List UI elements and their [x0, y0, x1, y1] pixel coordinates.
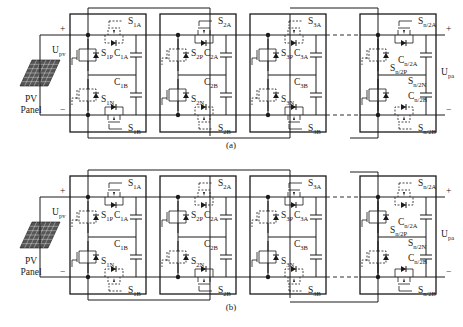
switch-label-N: S1N [101, 94, 115, 106]
diode-leads [395, 269, 413, 277]
mosfet-switch [162, 241, 189, 273]
diode-icon [383, 53, 389, 58]
output-voltage-label: Upa [441, 67, 454, 79]
mosfet-switch [395, 183, 413, 208]
diode-icon [383, 255, 389, 260]
interconnect [88, 176, 210, 300]
diode-icon [291, 40, 296, 46]
mosfet-switch [105, 21, 123, 46]
capacitor [310, 35, 322, 75]
mosfet-switch [285, 183, 303, 208]
diode-leads [105, 35, 123, 43]
capacitor-label-B: C2B [204, 239, 219, 251]
capacitor [130, 35, 142, 75]
junction-dot [376, 33, 380, 37]
mosfet-channel [169, 211, 178, 223]
diode-icon [111, 40, 116, 46]
circuit-diagram: PVPanel+−Upv+−UpaS1AS1BS1PS1NC1AC1BS2AS2… [0, 0, 463, 327]
module-1: S1AS1BS1PS1NC1AC1B [70, 14, 146, 135]
capacitor [220, 237, 232, 277]
junction-dot [176, 113, 180, 117]
output-minus-sign: − [446, 267, 451, 277]
diode-leads [105, 269, 123, 277]
mosfet-channel [79, 49, 88, 61]
mosfet-switch [72, 201, 99, 233]
pv-label: PV [25, 256, 37, 266]
mosfet-switch [362, 201, 389, 233]
capacitor-label-A: C3A [294, 48, 309, 60]
diode-leads [378, 251, 386, 263]
arrow-icon [203, 278, 205, 282]
mosfet-switch [395, 104, 413, 129]
panel-b: PVPanel+−Upv+−UpaS1AS1BS1PS1NC1AC1BS2AS2… [20, 170, 454, 312]
switch-label-A: Sn/2A [418, 16, 437, 28]
gate-lead [72, 260, 77, 267]
diode-leads [378, 211, 386, 223]
arrow-icon [403, 278, 405, 282]
mosfet-switch [395, 266, 413, 291]
switch-label-P: S1P [101, 48, 114, 60]
switch-label-B: S2B [218, 123, 232, 135]
mosfet-channel [369, 89, 378, 101]
arrow-icon [293, 30, 295, 34]
mosfet-channel [259, 211, 268, 223]
diode-icon [401, 202, 406, 208]
interconnect [88, 170, 290, 298]
diode-icon [93, 215, 99, 220]
mosfet-switch [72, 39, 99, 71]
diode-icon [273, 93, 279, 98]
mosfet-channel [259, 251, 268, 263]
interconnect [290, 8, 378, 138]
mosfet-channel [79, 251, 88, 263]
mosfet-channel [369, 211, 378, 223]
capacitor [310, 75, 322, 115]
capacitor-label-B: C3B [294, 77, 309, 89]
diode-leads [378, 49, 386, 61]
capacitor [220, 75, 232, 115]
diode-icon [273, 215, 279, 220]
mosfet-switch [252, 241, 279, 273]
mosfet-switch [72, 241, 99, 273]
diode-leads [395, 35, 413, 43]
mosfet-switch [105, 104, 123, 129]
module-2: S2AS2BS2PS2NC2AC2B [160, 176, 236, 297]
pv-label: Panel [20, 267, 41, 277]
arrow-icon [293, 278, 295, 282]
capacitor [220, 197, 232, 237]
junction-dot [266, 113, 270, 117]
mosfet-channel [369, 49, 378, 61]
diode-leads [378, 89, 386, 101]
diode-leads [268, 49, 276, 61]
diode-icon [291, 202, 296, 208]
capacitor-label-A: C2A [204, 210, 219, 222]
input-voltage-label: Upv [52, 207, 66, 219]
mosfet-switch [285, 104, 303, 129]
junction-dot [266, 195, 270, 199]
capacitor [310, 197, 322, 237]
gate-lead [162, 220, 167, 227]
switch-label-A: S1A [128, 178, 142, 190]
mosfet-channel [79, 211, 88, 223]
switch-label-A: S2A [218, 16, 232, 28]
junction-dot [176, 275, 180, 279]
arrow-icon [403, 30, 405, 34]
module-3: S3AS3BS3PS3NC3AC3B [250, 14, 326, 135]
switch-label-B: S3B [308, 123, 322, 135]
mosfet-switch [162, 201, 189, 233]
switch-label-B: S1B [128, 123, 142, 135]
capacitor [130, 75, 142, 115]
capacitor-label-B: C1B [114, 239, 129, 251]
switch-label-B: Sn/2B [418, 123, 437, 135]
gate-lead [252, 98, 257, 105]
diode-icon [201, 40, 206, 46]
diode-icon [93, 53, 99, 58]
arrow-icon [293, 116, 295, 120]
arrow-icon [113, 278, 115, 282]
module-4: Sn/2ASn/2BSn/2PSn/2NCn/2ACn/2B [360, 176, 437, 297]
mosfet-switch [252, 39, 279, 71]
panel-caption: (a) [226, 140, 236, 150]
diode-icon [93, 93, 99, 98]
module-3: S3AS3BS3PS3NC3AC3B [250, 176, 326, 297]
minus-sign: − [60, 105, 65, 115]
switch-label-B: S2B [218, 285, 232, 297]
